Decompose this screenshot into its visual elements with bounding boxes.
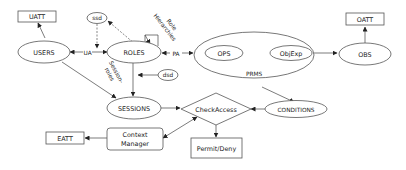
svg-text:Context: Context: [122, 131, 148, 139]
edge-users-uatt: [38, 23, 45, 38]
svg-text:OATT: OATT: [357, 16, 374, 24]
node-obs: OBS: [339, 43, 391, 65]
svg-text:Permit/Deny: Permit/Deny: [197, 145, 237, 153]
svg-text:EATT: EATT: [57, 135, 73, 143]
svg-text:USERS: USERS: [33, 49, 54, 57]
label-pa: PA: [172, 51, 179, 57]
node-conditions: CONDITIONS: [265, 101, 327, 118]
access-control-diagram: UATT USERS UA ssd ROLES Role Hierarchies…: [0, 0, 406, 170]
svg-text:SESSIONS: SESSIONS: [118, 105, 150, 113]
label-role-hierarchies: Role Hierarchies: [152, 8, 182, 42]
svg-text:CheckAccess: CheckAccess: [195, 106, 237, 114]
edge-prms-conditions: [262, 87, 294, 102]
svg-text:UATT: UATT: [29, 13, 45, 21]
node-objexp: ObjExp: [270, 46, 312, 61]
svg-text:PRMS: PRMS: [246, 71, 263, 77]
node-ssd: ssd: [87, 13, 107, 24]
node-dsd: dsd: [158, 70, 178, 81]
node-context-manager: Context Manager: [107, 128, 163, 150]
node-users: USERS: [18, 41, 70, 63]
node-oatt: OATT: [346, 13, 384, 25]
node-permit-deny: Permit/Deny: [191, 138, 242, 158]
svg-text:CONDITIONS: CONDITIONS: [278, 107, 315, 113]
node-ops: OPS: [205, 46, 243, 61]
label-session-roles: Session- roles: [102, 60, 125, 87]
svg-text:Manager: Manager: [121, 140, 149, 148]
edge-roles-ssd: [108, 21, 135, 44]
svg-text:OPS: OPS: [218, 50, 231, 58]
svg-text:ObjExp: ObjExp: [280, 50, 303, 58]
node-sessions: SESSIONS: [107, 97, 161, 119]
edge-checkaccess-context: [163, 117, 197, 138]
node-eatt: EATT: [46, 132, 84, 144]
label-ua: UA: [83, 50, 91, 56]
node-roles: ROLES: [107, 41, 161, 63]
svg-text:dsd: dsd: [163, 72, 174, 78]
node-uatt: UATT: [18, 11, 56, 22]
svg-text:ssd: ssd: [92, 15, 102, 21]
svg-text:OBS: OBS: [358, 51, 371, 59]
svg-text:ROLES: ROLES: [123, 49, 144, 57]
